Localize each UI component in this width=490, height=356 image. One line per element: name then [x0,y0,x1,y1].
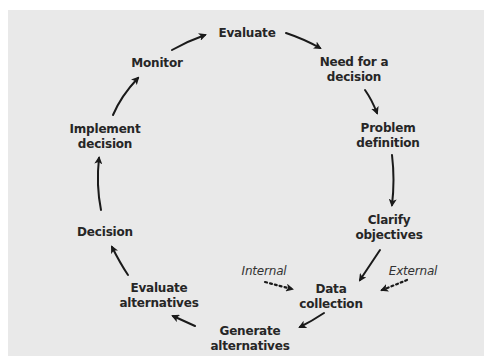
node-generate-alternatives: Generate alternatives [210,324,289,354]
arrow-external-to-data [382,280,407,290]
node-need-for-decision: Need for a decision [320,55,389,85]
node-decision: Decision [77,225,133,240]
arrow-monitor-to-evaluate [172,35,205,50]
input-external-label: External [389,264,437,279]
node-problem-definition: Problem definition [356,121,419,151]
arrow-evalalt-to-decision [112,247,128,275]
arrow-clarify-to-data [360,250,380,280]
arrow-data-to-generate [300,313,324,327]
arrow-internal-to-data [265,282,292,289]
arrow-decision-to-implement [98,158,101,210]
arrow-generate-to-evalalt [173,316,195,326]
input-internal-label: Internal [242,264,287,279]
node-clarify-objectives: Clarify objectives [355,213,422,243]
node-implement-decision: Implement decision [70,122,141,152]
cycle-arrows [0,0,490,356]
arrow-problem-to-clarify [392,155,394,205]
arrow-need-to-problem [365,90,377,113]
arrow-implement-to-monitor [113,78,138,115]
node-evaluate-alternatives: Evaluate alternatives [119,281,198,311]
arrow-evaluate-to-need [286,33,320,48]
node-evaluate: Evaluate [218,26,275,41]
node-data-collection: Data collection [299,282,362,312]
node-monitor: Monitor [131,56,182,71]
